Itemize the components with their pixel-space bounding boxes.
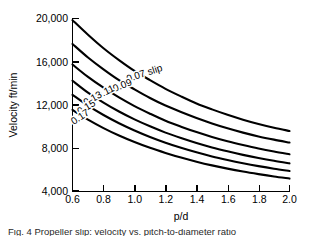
x-axis-tick-labels: 0.6 0.8 1.0 1.2 1.4 1.6 1.8 2.0 (65, 193, 297, 205)
curve-labels-group: 0.07 slip0.07 slip0.090.090.110.110.130.… (69, 62, 164, 127)
figure-caption-strip: Fig. 4 Propeller slip: velocity vs. pitc… (0, 229, 316, 236)
velocity-vs-pd-chart: 20,000 16,000 12,000 8,000 4,000 Velocit… (0, 0, 316, 236)
x-tick-label-0-8: 0.8 (96, 193, 111, 205)
curve-slip-0-17 (73, 110, 290, 179)
x-tick-label-1-0: 1.0 (127, 193, 142, 205)
x-tick-label-0-6: 0.6 (65, 193, 80, 205)
x-axis-title: p/d (174, 210, 189, 222)
y-tick-label-8000: 8,000 (42, 142, 68, 154)
x-tick-label-1-2: 1.2 (159, 193, 174, 205)
y-axis-tick-labels: 20,000 16,000 12,000 8,000 4,000 (36, 12, 68, 197)
y-tick-label-4000: 4,000 (42, 185, 68, 197)
x-tick-label-1-6: 1.6 (221, 193, 236, 205)
curve-slip-0-15 (73, 95, 290, 171)
figure-container: 20,000 16,000 12,000 8,000 4,000 Velocit… (0, 0, 316, 236)
curve-slip-0-11 (73, 64, 290, 154)
data-curves-group (73, 20, 290, 178)
y-tick-label-16000: 16,000 (36, 56, 68, 68)
y-axis-title: Velocity ft/min (7, 72, 19, 137)
curve-slip-0-07 (73, 20, 290, 131)
x-tick-label-1-8: 1.8 (252, 193, 267, 205)
y-tick-label-12000: 12,000 (36, 99, 68, 111)
x-tick-label-1-4: 1.4 (190, 193, 205, 205)
figure-caption: Fig. 4 Propeller slip: velocity vs. pitc… (8, 229, 236, 236)
y-tick-label-20000: 20,000 (36, 12, 68, 24)
x-axis-ticks (73, 185, 290, 192)
x-tick-label-2-0: 2.0 (282, 193, 297, 205)
